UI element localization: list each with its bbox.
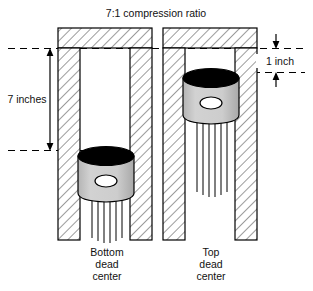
right-piston bbox=[183, 69, 239, 125]
bottom-dead-center-label-line2: dead bbox=[95, 258, 119, 270]
left-cylinder-wall-left bbox=[58, 48, 80, 240]
bottom-dead-center-label-line3: center bbox=[92, 270, 122, 282]
left-piston-crown bbox=[78, 147, 134, 166]
top-dead-center-label-line3: center bbox=[196, 270, 226, 282]
top-dead-center-label-line1: Top bbox=[203, 246, 220, 258]
one-inch-label: 1 inch bbox=[266, 55, 294, 67]
right-piston-crown bbox=[183, 69, 239, 88]
top-dead-center-label-line2: dead bbox=[199, 258, 223, 270]
diagram-background bbox=[0, 0, 313, 291]
seven-inches-label: 7 inches bbox=[7, 93, 46, 105]
right-cylinder-wall-left bbox=[163, 48, 185, 240]
right-piston-pin-hole bbox=[200, 97, 222, 109]
diagram-title: 7:1 compression ratio bbox=[106, 7, 207, 19]
bottom-dead-center-label-line1: Bottom bbox=[90, 246, 124, 258]
left-piston-pin-hole bbox=[95, 175, 117, 187]
left-piston bbox=[78, 147, 134, 203]
compression-ratio-diagram: 7:1 compression ratio bbox=[0, 0, 313, 291]
right-cylinder-head bbox=[163, 28, 257, 48]
left-cylinder-wall-right bbox=[130, 48, 152, 240]
left-cylinder-head bbox=[58, 28, 152, 48]
